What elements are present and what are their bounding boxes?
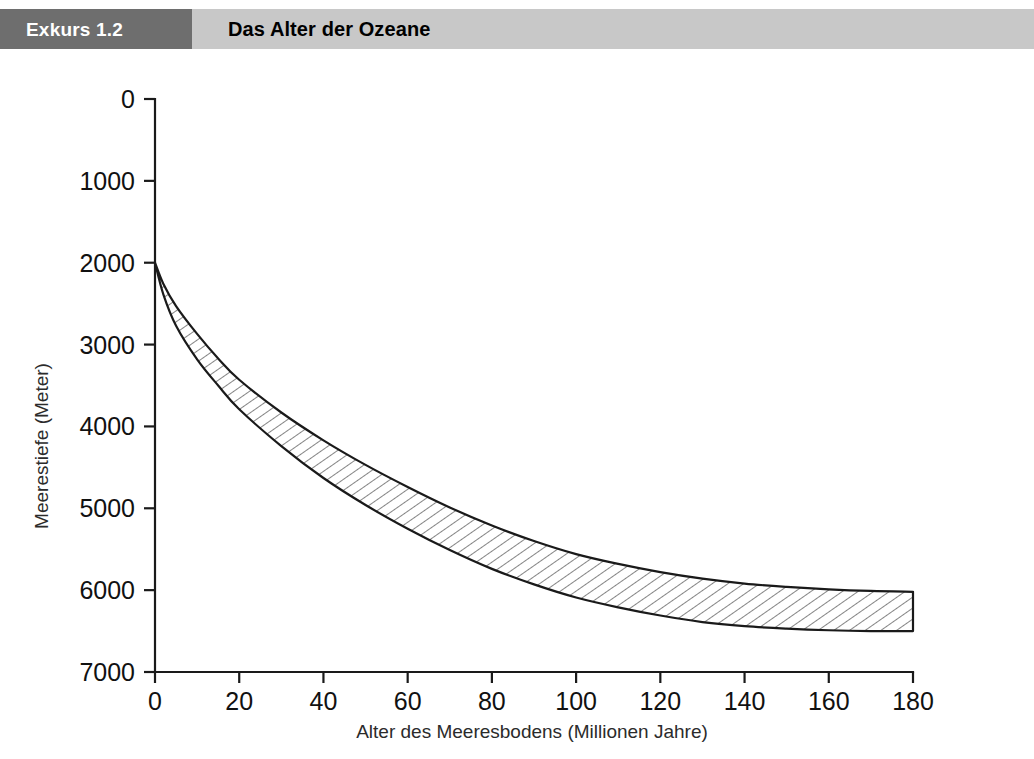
x-tick-label: 60: [394, 687, 422, 715]
excursus-title: Das Alter der Ozeane: [228, 18, 430, 41]
y-axis-title: Meerestiefe (Meter): [31, 363, 52, 529]
y-tick-label: 6000: [79, 576, 135, 604]
x-tick-label: 40: [310, 687, 338, 715]
chart-figure: 01000200030004000500060007000 0204060801…: [0, 60, 1034, 759]
x-tick-label: 160: [808, 687, 850, 715]
y-tick-label: 0: [121, 85, 135, 113]
y-tick-label: 2000: [79, 249, 135, 277]
depth-band-area: [155, 263, 913, 631]
ocean-depth-vs-age-chart: 01000200030004000500060007000 0204060801…: [0, 60, 1034, 759]
x-axis-ticks: 020406080100120140160180: [148, 672, 934, 715]
y-axis-ticks: 01000200030004000500060007000: [79, 85, 155, 686]
x-tick-label: 140: [724, 687, 766, 715]
y-tick-label: 3000: [79, 331, 135, 359]
x-tick-label: 180: [892, 687, 934, 715]
x-tick-label: 0: [148, 687, 162, 715]
y-tick-label: 4000: [79, 412, 135, 440]
excursus-number-label: Exkurs 1.2: [26, 19, 123, 41]
y-tick-label: 1000: [79, 167, 135, 195]
excursus-header: Exkurs 1.2 Das Alter der Ozeane: [0, 9, 1034, 49]
y-tick-label: 7000: [79, 658, 135, 686]
x-tick-label: 120: [639, 687, 681, 715]
x-tick-label: 100: [555, 687, 597, 715]
x-axis-title: Alter des Meeresbodens (Millionen Jahre): [356, 721, 708, 742]
y-tick-label: 5000: [79, 494, 135, 522]
x-tick-label: 20: [225, 687, 253, 715]
x-tick-label: 80: [478, 687, 506, 715]
